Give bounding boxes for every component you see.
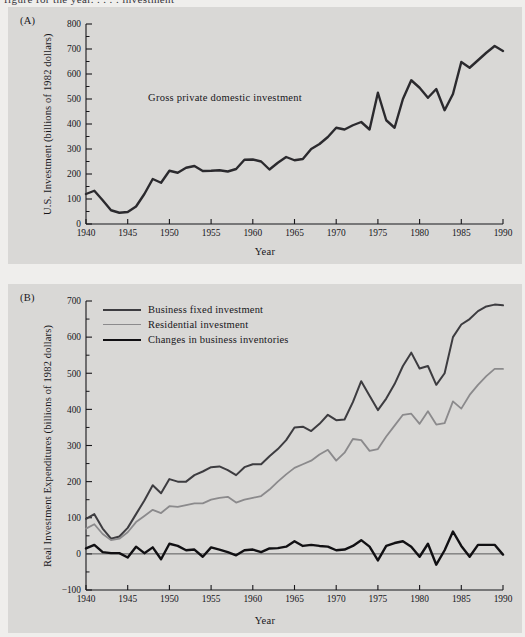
svg-text:1960: 1960 bbox=[243, 228, 262, 238]
svg-text:1960: 1960 bbox=[243, 594, 262, 604]
svg-text:200: 200 bbox=[67, 477, 81, 487]
svg-text:600: 600 bbox=[67, 69, 81, 79]
svg-text:300: 300 bbox=[67, 144, 81, 154]
cropped-top-text: figure for the year. . . . . investment bbox=[0, 0, 525, 7]
svg-text:1940: 1940 bbox=[77, 228, 96, 238]
svg-text:1990: 1990 bbox=[494, 594, 513, 604]
svg-text:1950: 1950 bbox=[160, 594, 179, 604]
svg-text:1985: 1985 bbox=[452, 228, 471, 238]
svg-text:1940: 1940 bbox=[77, 594, 96, 604]
chart-panel-a: (A) U.S. Investment (billions of 1982 do… bbox=[8, 7, 522, 264]
svg-text:1955: 1955 bbox=[202, 594, 221, 604]
svg-text:500: 500 bbox=[67, 369, 81, 379]
svg-text:1950: 1950 bbox=[160, 228, 179, 238]
svg-text:1965: 1965 bbox=[285, 228, 304, 238]
svg-text:1980: 1980 bbox=[410, 594, 429, 604]
cropped-top-text-content: figure for the year. . . . . investment bbox=[4, 0, 174, 5]
svg-text:1975: 1975 bbox=[369, 228, 388, 238]
svg-text:700: 700 bbox=[67, 44, 81, 54]
svg-text:100: 100 bbox=[67, 513, 81, 523]
svg-text:300: 300 bbox=[67, 441, 81, 451]
svg-text:600: 600 bbox=[67, 332, 81, 342]
svg-text:400: 400 bbox=[67, 405, 81, 415]
svg-text:1970: 1970 bbox=[327, 228, 346, 238]
svg-text:1945: 1945 bbox=[118, 228, 137, 238]
svg-text:1985: 1985 bbox=[452, 594, 471, 604]
svg-text:1970: 1970 bbox=[327, 594, 346, 604]
svg-text:1955: 1955 bbox=[202, 228, 221, 238]
svg-text:1980: 1980 bbox=[410, 228, 429, 238]
panel-b-plot: −100010020030040050060070019401945195019… bbox=[8, 284, 522, 633]
svg-text:100: 100 bbox=[67, 194, 81, 204]
svg-text:500: 500 bbox=[67, 94, 81, 104]
svg-text:1965: 1965 bbox=[285, 594, 304, 604]
panel-a-plot: 0100200300400500600700800194019451950195… bbox=[8, 7, 522, 264]
svg-text:1945: 1945 bbox=[118, 594, 137, 604]
svg-text:700: 700 bbox=[67, 296, 81, 306]
svg-text:1975: 1975 bbox=[369, 594, 388, 604]
chart-panel-b: (B) Real Investment Expenditures (billio… bbox=[8, 284, 522, 633]
svg-text:0: 0 bbox=[76, 549, 81, 559]
svg-text:200: 200 bbox=[67, 169, 81, 179]
svg-text:800: 800 bbox=[67, 19, 81, 29]
svg-text:1990: 1990 bbox=[494, 228, 513, 238]
svg-text:400: 400 bbox=[67, 119, 81, 129]
